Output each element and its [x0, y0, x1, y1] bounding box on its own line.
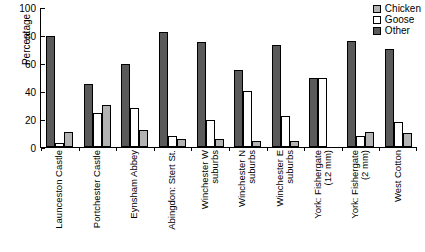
- bar-chicken: [215, 139, 224, 147]
- bar-other: [309, 78, 318, 147]
- bar-other: [197, 42, 206, 147]
- bar-other: [46, 36, 55, 147]
- bar-goose: [55, 143, 64, 147]
- bar-group: [116, 8, 154, 147]
- bar-goose: [394, 122, 403, 147]
- x-axis-tick-label: Abingdon: Stert St.: [167, 150, 177, 230]
- x-axis-tick-label: Winchester Wsuburbs: [200, 150, 220, 209]
- legend-item-goose: Goose: [373, 15, 421, 25]
- bar-goose: [243, 91, 252, 147]
- legend-item-other: Other: [373, 26, 421, 36]
- x-axis-tick-label: Launceston Castle: [54, 150, 64, 229]
- bar-goose: [168, 136, 177, 147]
- legend-label-other: Other: [385, 26, 410, 36]
- bar-group: [191, 8, 229, 147]
- x-label-line: (12 mm): [323, 150, 333, 219]
- y-tick-label: 60: [25, 59, 41, 70]
- x-axis-labels: Launceston CastlePortchester CastleEynsh…: [40, 150, 417, 250]
- bar-chicken: [365, 132, 374, 147]
- legend-label-goose: Goose: [385, 15, 414, 25]
- x-axis-tick-label: West Cotton: [393, 150, 403, 202]
- x-label-line: Abingdon: Stert St.: [167, 150, 177, 230]
- bar-other: [121, 64, 130, 147]
- bar-goose: [356, 136, 365, 147]
- bar-goose: [206, 120, 215, 147]
- x-label-line: suburbs: [247, 150, 257, 207]
- x-axis-tick-label: Winchester Esuburbs: [275, 150, 295, 207]
- x-label-line: Portchester Castle: [92, 150, 102, 228]
- x-label-line: Launceston Castle: [54, 150, 64, 229]
- x-axis-tick-label: Eynsham Abbey: [129, 150, 139, 219]
- bar-group: [79, 8, 117, 147]
- x-label-line: suburbs: [210, 150, 220, 209]
- bar-group: [229, 8, 267, 147]
- bar-chicken: [64, 132, 73, 147]
- bar-group: [267, 8, 305, 147]
- x-label-cell: Portchester Castle: [78, 150, 116, 250]
- bar-goose: [93, 113, 102, 147]
- x-axis-tick-label: Portchester Castle: [92, 150, 102, 228]
- bar-group: [41, 8, 79, 147]
- x-axis-tick-label: Winchester Nsuburbs: [237, 150, 257, 207]
- x-label-cell: Abingdon: Stert St.: [153, 150, 191, 250]
- x-label-line: (2 mm): [360, 150, 370, 219]
- bar-group: [154, 8, 192, 147]
- bar-group: [304, 8, 342, 147]
- chicken-swatch-icon: [373, 5, 381, 13]
- x-label-cell: Winchester Wsuburbs: [191, 150, 229, 250]
- bar-groups: [41, 8, 417, 147]
- x-axis-tick-label: York: Fishergate(12 mm): [313, 150, 333, 219]
- bar-other: [385, 49, 394, 147]
- x-label-cell: Winchester Esuburbs: [266, 150, 304, 250]
- bar-goose: [130, 108, 139, 147]
- bar-chicken: [290, 141, 299, 147]
- bar-goose: [318, 78, 327, 147]
- bar-other: [272, 45, 281, 147]
- bar-chicken: [177, 139, 186, 147]
- bar-chicken: [139, 130, 148, 147]
- bar-other: [159, 32, 168, 147]
- x-label-cell: York: Fishergate(2 mm): [342, 150, 380, 250]
- legend-label-chicken: Chicken: [385, 4, 421, 14]
- y-tick-label: 100: [19, 3, 41, 14]
- bar-other: [84, 84, 93, 147]
- x-label-line: Eynsham Abbey: [129, 150, 139, 219]
- bar-chicken: [252, 141, 261, 147]
- x-label-cell: Winchester Nsuburbs: [229, 150, 267, 250]
- x-axis-tick-label: York: Fishergate(2 mm): [350, 150, 370, 219]
- bar-chicken: [102, 105, 111, 147]
- plot-area: 020406080100: [40, 8, 417, 148]
- x-label-cell: Launceston Castle: [40, 150, 78, 250]
- y-tick-label: 20: [25, 115, 41, 126]
- y-tick-label: 80: [25, 31, 41, 42]
- bar-goose: [281, 116, 290, 147]
- x-label-cell: York: Fishergate(12 mm): [304, 150, 342, 250]
- x-label-line: West Cotton: [393, 150, 403, 202]
- x-label-cell: Eynsham Abbey: [115, 150, 153, 250]
- bar-chart: Chicken Goose Other Percentage 020406080…: [0, 0, 425, 252]
- goose-swatch-icon: [373, 16, 381, 24]
- x-label-cell: West Cotton: [379, 150, 417, 250]
- legend-item-chicken: Chicken: [373, 4, 421, 14]
- bar-chicken: [403, 133, 412, 147]
- chart-legend: Chicken Goose Other: [373, 4, 421, 36]
- bar-other: [347, 41, 356, 147]
- y-tick-label: 40: [25, 87, 41, 98]
- bar-other: [234, 70, 243, 147]
- other-swatch-icon: [373, 27, 381, 35]
- x-label-line: suburbs: [285, 150, 295, 207]
